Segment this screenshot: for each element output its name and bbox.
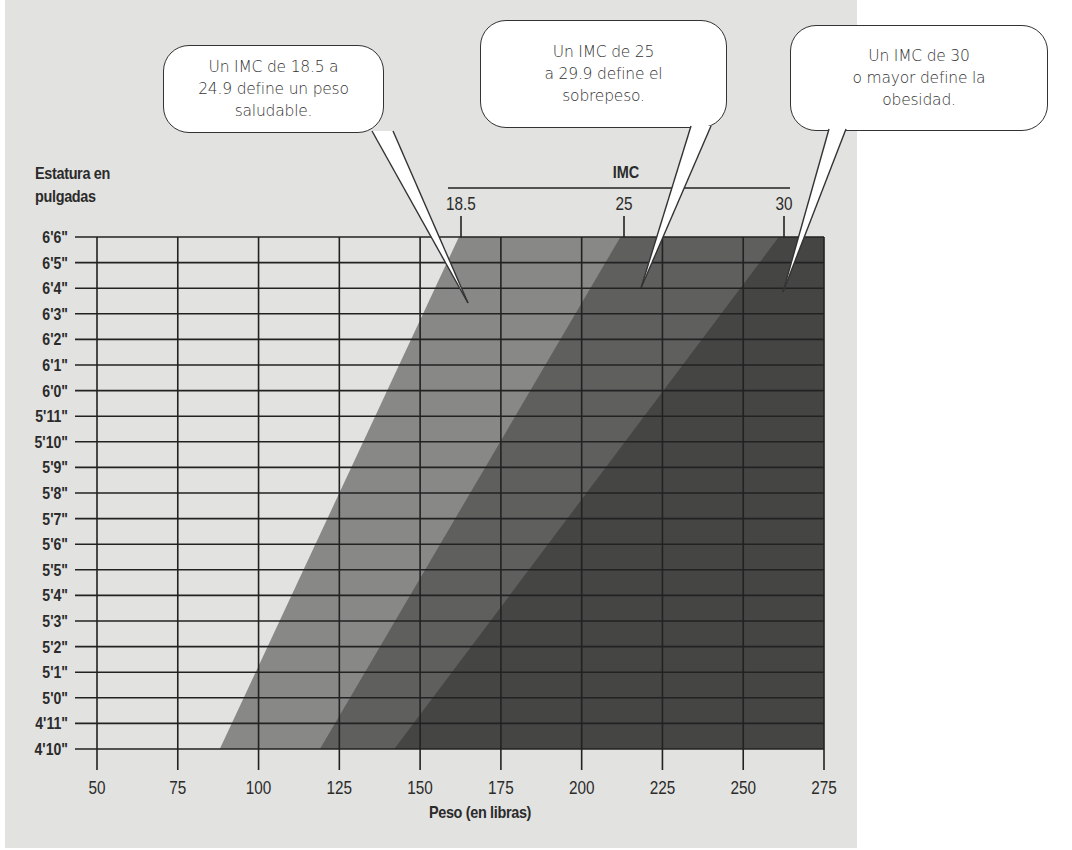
- y-tick-label: 6'6": [42, 228, 68, 246]
- x-tick-label: 200: [569, 778, 595, 798]
- x-tick-label: 50: [88, 778, 105, 798]
- y-tick-label: 5'4": [42, 587, 68, 605]
- y-tick-label: 5'10": [34, 433, 68, 451]
- y-tick-label: 6'4": [42, 279, 68, 297]
- y-tick-label: 5'3": [42, 612, 68, 630]
- callout-overweight: Un IMC de 25 a 29.9 define el sobrepeso.: [480, 20, 727, 128]
- x-tick-label: 175: [488, 778, 514, 798]
- imc-tick-label: 30: [775, 194, 792, 214]
- y-tick-label: 5'0": [42, 689, 68, 707]
- x-tick-label: 150: [407, 778, 433, 798]
- imc-tick-label: 18.5: [446, 194, 476, 214]
- x-tick-label: 75: [169, 778, 186, 798]
- x-tick-label: 250: [730, 778, 756, 798]
- y-tick-label: 5'1": [42, 663, 68, 681]
- y-tick-label: 5'2": [42, 638, 68, 656]
- y-tick-label: 5'7": [42, 510, 68, 528]
- imc-axis-title: IMC: [601, 163, 652, 183]
- callout-obesity-text: Un IMC de 30 o mayor define la obesidad.: [853, 45, 986, 111]
- y-tick-label: 6'2": [42, 331, 68, 349]
- x-tick-label: 125: [327, 778, 353, 798]
- y-tick-label: 5'11": [35, 407, 68, 425]
- callout-overweight-text: Un IMC de 25 a 29.9 define el sobrepeso.: [545, 41, 663, 107]
- y-tick-label: 4'11": [35, 715, 68, 733]
- y-tick-label: 5'5": [42, 561, 68, 579]
- callout-obesity: Un IMC de 30 o mayor define la obesidad.: [790, 25, 1048, 131]
- y-tick-label: 6'0": [42, 382, 68, 400]
- x-axis-title: Peso (en libras): [395, 803, 565, 823]
- y-axis-title: Estatura en pulgadas: [35, 162, 110, 208]
- y-tick-label: 5'9": [42, 459, 68, 477]
- y-tick-label: 6'1": [42, 356, 68, 374]
- callout-healthy-text: Un IMC de 18.5 a 24.9 define un peso sal…: [198, 56, 349, 122]
- callout-healthy: Un IMC de 18.5 a 24.9 define un peso sal…: [163, 45, 384, 133]
- y-tick-label: 5'6": [42, 535, 68, 553]
- y-tick-label: 6'5": [42, 254, 68, 272]
- y-tick-label: 5'8": [42, 484, 68, 502]
- imc-tick-label: 25: [615, 194, 632, 214]
- y-tick-label: 6'3": [42, 305, 68, 323]
- x-tick-label: 100: [246, 778, 272, 798]
- x-tick-label: 275: [811, 778, 837, 798]
- y-tick-label: 4'10": [34, 740, 68, 758]
- x-tick-label: 225: [650, 778, 676, 798]
